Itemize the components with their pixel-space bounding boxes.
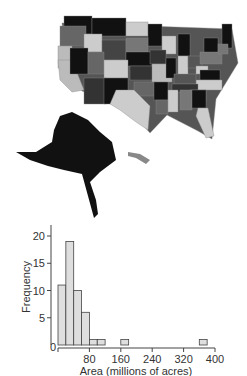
y-tick-label: 20 bbox=[33, 230, 45, 242]
alaska bbox=[16, 112, 116, 218]
x-tick-label: 400 bbox=[206, 353, 224, 365]
hawaii bbox=[128, 152, 150, 164]
histogram-bar bbox=[97, 340, 105, 345]
histogram-bar bbox=[89, 340, 97, 345]
y-ticks: 5101520 bbox=[33, 230, 51, 324]
histogram-bar bbox=[199, 340, 207, 345]
histogram: 5101520 080160240320400 Frequency Area (… bbox=[0, 225, 247, 376]
histogram-bar bbox=[66, 241, 74, 345]
y-tick-label: 5 bbox=[39, 312, 45, 324]
histogram-bar bbox=[121, 340, 129, 345]
histogram-bar bbox=[74, 291, 82, 346]
x-tick-label: 320 bbox=[174, 353, 192, 365]
x-tick-label: 240 bbox=[143, 353, 161, 365]
x-tick-label: 0 bbox=[50, 341, 56, 353]
y-tick-label: 10 bbox=[33, 285, 45, 297]
us-states-map bbox=[0, 0, 247, 235]
y-tick-label: 15 bbox=[33, 257, 45, 269]
x-tick-label: 80 bbox=[83, 353, 95, 365]
histogram-bars bbox=[58, 241, 207, 345]
x-tick-label: 160 bbox=[112, 353, 130, 365]
histogram-bar bbox=[82, 312, 90, 345]
x-axis-label: Area (millions of acres) bbox=[80, 365, 192, 376]
histogram-bar bbox=[58, 285, 66, 345]
y-axis-label: Frequency bbox=[20, 261, 32, 313]
